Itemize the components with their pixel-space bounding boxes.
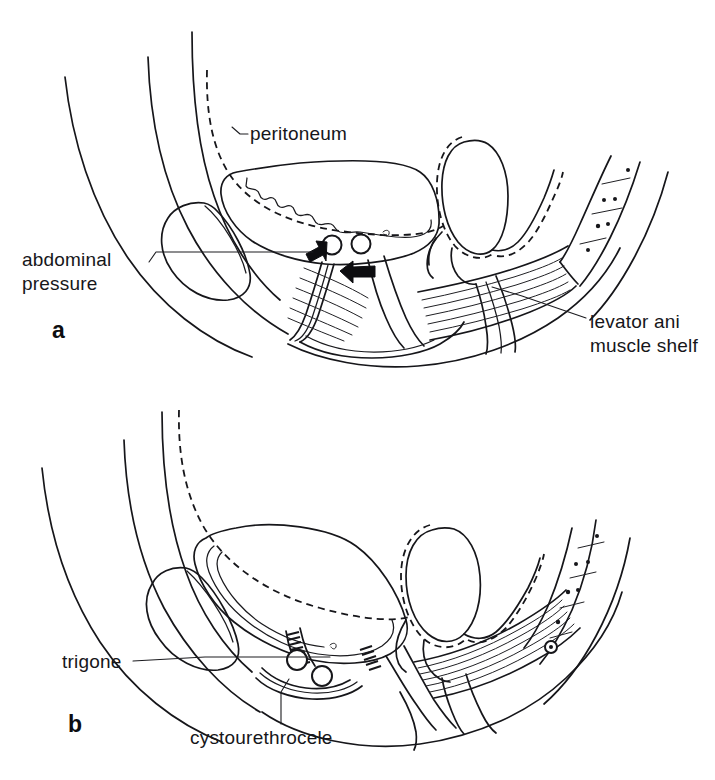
abdominal-pressure-label-line2: pressure — [22, 273, 98, 294]
coccyx-tip-dot-b — [549, 645, 553, 649]
peritoneum-dashed-line — [207, 70, 443, 235]
urethra-cross-section-b — [287, 650, 307, 670]
pubic-bone-inner-edge-b — [187, 571, 233, 642]
trigone-label: trigone — [62, 651, 122, 672]
peritoneum-label: peritoneum — [250, 123, 347, 144]
bladder-internal-mark-b — [330, 643, 336, 649]
pubic-bone-inner-edge — [205, 206, 246, 273]
figure-root: peritoneum abdominal pressure levator an… — [0, 0, 715, 780]
abdominal-wall-layer-inner — [192, 32, 280, 300]
levator-ani-label-line1: levator ani — [590, 311, 680, 332]
vagina-cross-section-b — [312, 666, 332, 686]
abdominal-wall-layer-middle — [148, 57, 288, 334]
abdominal-wall-layer-inner-b — [162, 412, 252, 672]
peritoneum-leader — [232, 127, 248, 134]
pelvic-floor-outer-sweep — [288, 248, 620, 367]
vaginal-wall-posterior — [384, 256, 424, 346]
uterus-b — [406, 528, 480, 642]
pubic-bone — [162, 203, 251, 301]
prolapsed-bladder-mucosa-inner — [217, 552, 324, 647]
urethrovaginal-hatched-band — [360, 646, 381, 670]
coccyx-tip — [560, 262, 578, 284]
cystourethrocele-label: cystourethrocele — [190, 727, 333, 748]
panel-b: trigone cystourethrocele b — [42, 410, 630, 750]
vagina-cross-section — [352, 235, 371, 254]
perineal-body-inner — [306, 336, 434, 352]
uterus-peritoneal-covering — [437, 137, 494, 258]
panel-a-letter: a — [52, 317, 65, 343]
sacrum-vertebral-dots-b — [556, 534, 599, 624]
abdominal-pressure-label-line1: abdominal — [22, 249, 111, 270]
levator-ani-muscle-striations-right — [422, 258, 570, 332]
uterus — [442, 140, 508, 254]
perineal-body — [300, 322, 464, 358]
abdominal-wall-layer-outer — [65, 77, 252, 357]
panel-a: peritoneum abdominal pressure levator an… — [22, 32, 699, 367]
peritoneum-dashed-line-b — [179, 410, 412, 619]
levator-ani-label-line2: muscle shelf — [590, 335, 699, 356]
pubic-bone-b — [146, 568, 238, 671]
panel-b-letter: b — [68, 711, 82, 737]
pelvic-anatomy-figure: peritoneum abdominal pressure levator an… — [0, 0, 715, 780]
broad-ligament-fold-b — [464, 558, 540, 638]
bladder-mucosa-wavy — [246, 178, 431, 237]
uterus-peritoneal-covering-b — [401, 525, 466, 647]
cystourethrocele-leader — [281, 679, 289, 724]
levator-ani-muscle-striations-left — [288, 268, 368, 341]
levator-ani-upper-border — [418, 246, 568, 292]
urethra-wall-anterior-b — [262, 668, 350, 689]
